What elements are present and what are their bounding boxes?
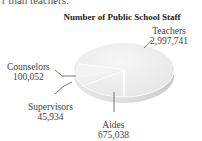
label-supervisors-value: 45,934 xyxy=(28,112,73,122)
label-counselors-name: Counselors xyxy=(7,62,50,72)
leader-line-supervisors xyxy=(55,82,72,94)
label-aides: Aides 675,038 xyxy=(98,120,129,140)
label-teachers-name: Teachers xyxy=(150,26,188,36)
label-teachers-value: 2,997,741 xyxy=(150,36,188,46)
label-aides-value: 675,038 xyxy=(98,130,129,140)
label-supervisors-name: Supervisors xyxy=(28,102,73,112)
label-counselors-value: 100,052 xyxy=(7,72,50,82)
label-supervisors: Supervisors 45,934 xyxy=(28,102,73,122)
leader-line-counselors xyxy=(55,70,76,76)
label-aides-name: Aides xyxy=(98,120,129,130)
label-teachers: Teachers 2,997,741 xyxy=(150,26,188,46)
label-counselors: Counselors 100,052 xyxy=(7,62,50,82)
